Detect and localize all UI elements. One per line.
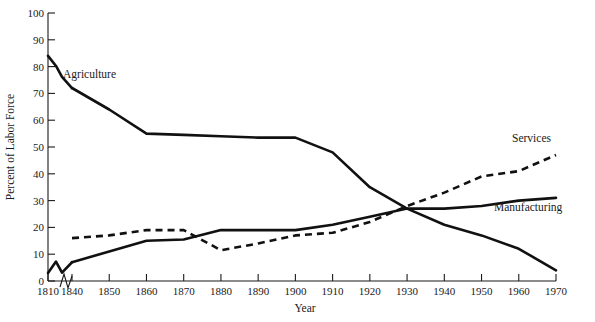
- series-break-manufacturing: [48, 262, 72, 273]
- x-tick-label: 1930: [396, 285, 419, 297]
- x-tick-label: 1880: [210, 285, 233, 297]
- x-tick-label: 1860: [135, 285, 158, 297]
- x-tick-label: 1920: [359, 285, 382, 297]
- y-axis-title: Percent of Labor Force: [4, 94, 16, 200]
- x-tick-label: 1970: [545, 285, 568, 297]
- y-tick-label: 50: [33, 141, 45, 153]
- y-tick-label: 40: [33, 168, 45, 180]
- x-tick-label: 1890: [247, 285, 270, 297]
- series-label-manufacturing: Manufacturing: [494, 201, 563, 214]
- x-axis-tick-labels: 1810184018501860187018801890190019101920…: [37, 285, 568, 297]
- x-tick-label: 1960: [508, 285, 531, 297]
- labor-force-line-chart: 0102030405060708090100 18101840185018601…: [0, 0, 595, 322]
- y-tick-label: 80: [33, 61, 45, 73]
- x-tick-label: 1900: [284, 285, 307, 297]
- y-tick-label: 10: [33, 248, 45, 260]
- series-lines: [48, 56, 556, 273]
- y-tick-label: 30: [33, 195, 45, 207]
- x-tick-label: 1810: [37, 285, 60, 297]
- series-label-services: Services: [512, 132, 551, 144]
- x-tick-label: 1870: [173, 285, 196, 297]
- x-axis-ticks: [48, 274, 556, 281]
- y-tick-label: 70: [33, 87, 45, 99]
- x-tick-label: 1940: [433, 285, 456, 297]
- x-tick-label: 1910: [322, 285, 345, 297]
- y-tick-label: 100: [28, 7, 45, 19]
- y-axis-tick-labels: 0102030405060708090100: [28, 7, 45, 287]
- y-axis-ticks: [48, 13, 55, 281]
- x-tick-label: 1950: [471, 285, 494, 297]
- series-line-agriculture: [72, 88, 556, 270]
- y-tick-label: 60: [33, 114, 45, 126]
- y-tick-label: 20: [33, 221, 45, 233]
- y-tick-label: 90: [33, 34, 45, 46]
- chart-container: 0102030405060708090100 18101840185018601…: [0, 0, 595, 322]
- series-label-agriculture: Agriculture: [63, 68, 116, 81]
- x-axis-title: Year: [294, 302, 315, 314]
- x-tick-label: 1850: [98, 285, 121, 297]
- x-tick-label: 1840: [61, 285, 84, 297]
